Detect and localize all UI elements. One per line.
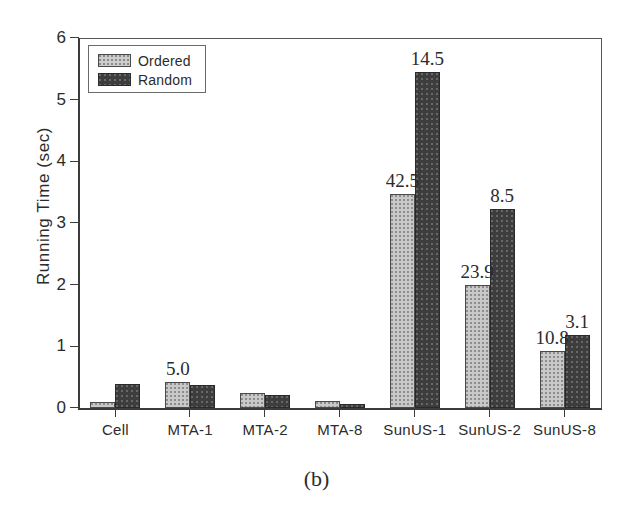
bar-SunUS-1-ordered: [390, 194, 415, 408]
bar-MTA-1-random: [190, 385, 215, 408]
random-swatch-icon: [98, 73, 131, 86]
y-tick-4: [70, 161, 79, 162]
bar-SunUS-2-ordered: [465, 285, 490, 408]
x-axis-label-SunUS-8: SunUS-8: [520, 421, 610, 438]
legend-label-ordered: Ordered: [138, 54, 191, 68]
legend-entry-random: Random: [98, 72, 192, 87]
x-tick-SunUS-2: [489, 408, 490, 417]
bar-Cell-ordered: [90, 402, 115, 408]
x-tick-SunUS-1: [414, 408, 415, 417]
y-tick-1: [70, 346, 79, 347]
y-tick-label-6: 6: [36, 29, 66, 46]
value-label-SunUS-2-ordered: 23.9: [442, 261, 512, 283]
bar-MTA-2-ordered: [240, 393, 265, 408]
bar-MTA-8-random: [340, 404, 365, 408]
value-label-SunUS-8-random: 3.1: [542, 311, 612, 333]
y-tick-5: [70, 99, 79, 100]
figure-caption: (b): [0, 466, 633, 492]
legend: Ordered Random: [88, 45, 206, 93]
y-axis-title: Running Time (sec): [34, 66, 54, 346]
value-label-MTA-1-ordered: 5.0: [143, 358, 213, 380]
x-tick-Cell: [115, 408, 116, 417]
y-tick-label-3: 3: [36, 214, 66, 231]
plot-area: [78, 38, 602, 408]
x-tick-SunUS-8: [564, 408, 565, 417]
bar-Cell-random: [115, 384, 140, 408]
bar-MTA-1-ordered: [165, 382, 190, 408]
y-tick-label-0: 0: [36, 399, 66, 416]
y-tick-label-2: 2: [36, 276, 66, 293]
bar-SunUS-8-ordered: [540, 351, 565, 408]
legend-entry-ordered: Ordered: [98, 53, 191, 68]
ordered-swatch-icon: [98, 54, 131, 67]
x-tick-MTA-2: [264, 408, 265, 417]
y-tick-label-5: 5: [36, 91, 66, 108]
x-tick-MTA-8: [339, 408, 340, 417]
y-tick-0: [70, 407, 79, 408]
legend-label-random: Random: [138, 73, 192, 87]
y-tick-6: [70, 37, 79, 38]
y-tick-label-4: 4: [36, 152, 66, 169]
figure-panel-b: Running Time (sec) 0123456 CellMTA-1MTA-…: [0, 0, 633, 518]
value-label-SunUS-2-random: 8.5: [467, 185, 537, 207]
x-tick-MTA-1: [189, 408, 190, 417]
y-tick-3: [70, 222, 79, 223]
bar-SunUS-2-random: [490, 209, 515, 408]
value-label-SunUS-1-ordered: 42.5: [367, 170, 437, 192]
y-tick-label-1: 1: [36, 337, 66, 354]
bar-SunUS-1-random: [415, 72, 440, 408]
y-tick-2: [70, 284, 79, 285]
bar-MTA-2-random: [265, 395, 290, 408]
bar-MTA-8-ordered: [315, 401, 340, 408]
value-label-SunUS-1-random: 14.5: [392, 48, 462, 70]
